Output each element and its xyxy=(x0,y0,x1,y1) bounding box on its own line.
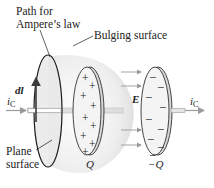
dl-label: dl xyxy=(15,84,24,96)
negative-charge-label: −Q xyxy=(148,158,163,170)
current-left-label: iC xyxy=(7,95,15,109)
ampere-path-label: Path for Ampere’s law xyxy=(16,5,80,31)
wire-right xyxy=(171,109,185,113)
current-right-label: iC xyxy=(190,95,198,109)
bulging-surface-label: Bulging surface xyxy=(94,29,167,42)
plane-surface-label: Plane surface xyxy=(6,145,39,171)
positive-charge-label: Q xyxy=(86,158,94,170)
electric-field-label: E xyxy=(132,93,139,105)
